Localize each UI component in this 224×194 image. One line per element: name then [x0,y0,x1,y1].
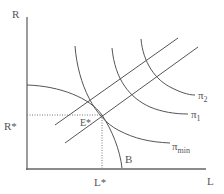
isoprofit-curve-min [75,46,170,143]
x-axis-label: L [207,175,214,187]
isoprofit-curve-2 [141,39,195,95]
isoprofit-2-label: π2 [198,89,208,104]
equilibrium-point-label: E* [80,117,91,128]
isoprofit-1-label: π1 [191,108,201,123]
l-star-label: L* [94,176,106,188]
upper-straight-line [55,38,178,125]
budget-curve-b [27,85,122,168]
y-axis-label: R [12,8,20,20]
budget-curve-label: B [125,153,132,165]
isoprofit-min-label: πmin [172,140,190,155]
r-star-label: R* [4,120,17,132]
economics-diagram: R L E* R* L* B πmin π1 π2 [0,0,224,194]
lower-straight-line [65,47,198,143]
